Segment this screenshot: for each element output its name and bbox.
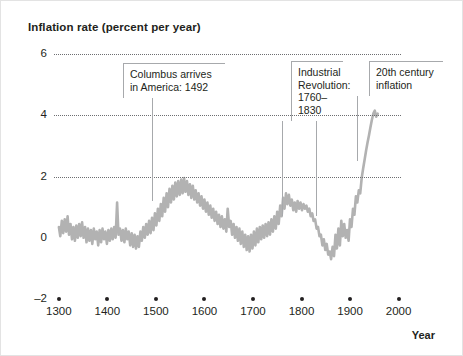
chart-title: Inflation rate (percent per year) [28, 21, 201, 33]
x-tick-label-1900: 1900 [328, 305, 372, 317]
x-tick-label-1300: 1300 [37, 305, 81, 317]
x-tick-label-1600: 1600 [182, 305, 226, 317]
x-tick-label-2000: 2000 [377, 305, 421, 317]
gridline-6 [54, 54, 401, 55]
series-line-inflation-rate [59, 111, 378, 260]
x-axis-label: Year [412, 329, 435, 341]
annotation-leader-twentieth-century-inflation-1915 [357, 96, 358, 161]
x-tick-dot-1500 [154, 297, 158, 301]
chart-figure: Inflation rate (percent per year) –20246… [0, 0, 463, 356]
y-tick-label--2: –2 [25, 292, 47, 304]
x-tick-label-1400: 1400 [85, 305, 129, 317]
y-tick-label-2: 2 [25, 170, 47, 182]
x-tick-dot-1900 [348, 297, 352, 301]
x-tick-dot-1800 [300, 297, 304, 301]
y-tick-label-4: 4 [25, 108, 47, 120]
x-tick-dot-1600 [202, 297, 206, 301]
x-tick-dot-1700 [251, 297, 255, 301]
annotation-twentieth-century-inflation: 20th century inflation [369, 61, 443, 96]
gridline-4 [54, 115, 401, 116]
y-tick-label-0: 0 [25, 231, 47, 243]
x-tick-label-1800: 1800 [280, 305, 324, 317]
annotation-columbus: Columbus arrives in America: 1492 [123, 63, 225, 98]
x-tick-dot-1400 [105, 297, 109, 301]
x-tick-dot-2000 [397, 297, 401, 301]
annotation-leader-industrial-revolution-1830 [316, 121, 317, 216]
x-tick-label-1700: 1700 [231, 305, 275, 317]
annotation-leader-industrial-revolution-1760 [282, 121, 283, 216]
y-tick-label-6: 6 [25, 47, 47, 59]
gridline-2 [54, 177, 401, 178]
annotation-leader-columbus-1492 [152, 98, 153, 201]
x-tick-label-1500: 1500 [134, 305, 178, 317]
x-tick-dot-1300 [57, 297, 61, 301]
annotation-industrial-revolution: Industrial Revolution: 1760–1830 [291, 61, 343, 121]
